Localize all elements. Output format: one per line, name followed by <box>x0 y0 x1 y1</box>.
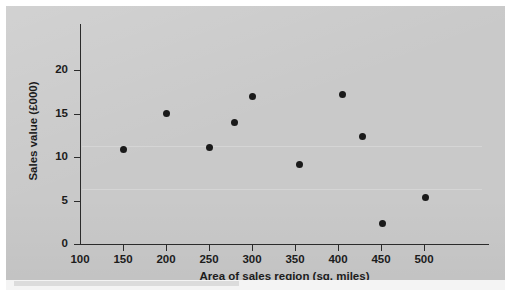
data-point <box>339 91 346 98</box>
x-tick-mark <box>338 245 339 251</box>
x-axis-line <box>80 244 489 245</box>
x-tick-mark <box>424 245 425 251</box>
x-tick-label: 250 <box>186 254 232 265</box>
x-tick-mark <box>381 245 382 251</box>
bottom-faint-artifact <box>14 281 239 286</box>
y-tick-mark <box>74 201 80 202</box>
y-tick-label: 0 <box>22 238 68 249</box>
y-tick-mark <box>74 157 80 158</box>
x-tick-label: 150 <box>100 254 146 265</box>
y-tick-mark <box>74 244 80 245</box>
data-point <box>422 194 429 201</box>
x-tick-label: 300 <box>229 254 275 265</box>
y-tick-mark <box>74 70 80 71</box>
data-point <box>120 146 127 153</box>
scatter-plot-figure: 05101520 100150200250300350400450500 Sal… <box>0 0 511 297</box>
y-axis-title: Sales value (£000) <box>27 61 39 201</box>
data-point <box>231 119 238 126</box>
x-tick-mark <box>209 245 210 251</box>
x-tick-label: 200 <box>143 254 189 265</box>
x-tick-label: 500 <box>401 254 447 265</box>
plot-background-plate: 05101520 100150200250300350400450500 Sal… <box>6 6 505 280</box>
x-tick-mark <box>252 245 253 251</box>
x-tick-label: 450 <box>358 254 404 265</box>
data-point <box>249 93 256 100</box>
data-point <box>359 133 366 140</box>
x-tick-mark <box>295 245 296 251</box>
x-tick-label: 350 <box>272 254 318 265</box>
data-point <box>206 144 213 151</box>
x-tick-mark <box>166 245 167 251</box>
x-tick-label: 100 <box>57 254 103 265</box>
data-point <box>296 161 303 168</box>
data-point <box>379 220 386 227</box>
y-axis-line <box>80 24 81 245</box>
x-tick-label: 400 <box>315 254 361 265</box>
background-streak <box>82 189 482 190</box>
data-point <box>163 110 170 117</box>
background-streak <box>82 146 482 147</box>
x-tick-mark <box>123 245 124 251</box>
y-tick-mark <box>74 114 80 115</box>
